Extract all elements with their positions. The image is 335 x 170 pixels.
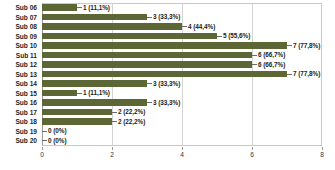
category-label: Sub 15	[15, 89, 37, 99]
x-tick-mark	[42, 147, 43, 150]
data-label-leader-line	[42, 131, 47, 132]
category-label: Sub 08	[15, 22, 37, 32]
bar-row: 5 (55,6%)	[42, 32, 322, 42]
data-label: 4 (44,4%)	[188, 22, 215, 32]
x-tick-mark	[252, 147, 253, 150]
data-label-leader-line	[77, 7, 82, 8]
horizontal-bar-chart: Sub 06Sub 07Sub 08Sub 09Sub 10Sub 11Sub …	[0, 0, 335, 170]
bar[interactable]	[42, 90, 77, 97]
category-label: Sub 19	[15, 127, 37, 137]
category-label: Sub 09	[15, 32, 37, 42]
data-label-leader-line	[147, 17, 152, 18]
data-label: 2 (22,2%)	[118, 107, 145, 117]
data-label-leader-line	[252, 64, 257, 65]
data-label: 7 (77,8%)	[293, 69, 320, 79]
bar[interactable]	[42, 80, 147, 87]
data-label: 3 (33,3%)	[153, 12, 180, 22]
x-tick-mark	[112, 147, 113, 150]
bar[interactable]	[42, 99, 147, 106]
category-label: Sub 11	[16, 51, 37, 61]
data-label-leader-line	[217, 36, 222, 37]
category-label: Sub 16	[15, 98, 37, 108]
data-label: 7 (77,8%)	[293, 41, 320, 51]
data-label: 6 (66,7%)	[258, 60, 285, 70]
data-label-leader-line	[147, 102, 152, 103]
bar[interactable]	[42, 109, 112, 116]
bar-row: 0 (0%)	[42, 127, 322, 137]
bar-row: 6 (66,7%)	[42, 60, 322, 70]
data-label: 5 (55,6%)	[223, 31, 250, 41]
data-label: 3 (33,3%)	[153, 79, 180, 89]
x-tick-label: 6	[250, 151, 254, 158]
data-label: 6 (66,7%)	[258, 50, 285, 60]
x-tick-label: 8	[320, 151, 324, 158]
bar[interactable]	[42, 61, 252, 68]
bar[interactable]	[42, 4, 77, 11]
bar-row: 2 (22,2%)	[42, 117, 322, 127]
bar-row: 3 (33,3%)	[42, 13, 322, 23]
bar[interactable]	[42, 33, 217, 40]
data-label: 0 (0%)	[48, 136, 67, 146]
data-label-leader-line	[252, 55, 257, 56]
bar-row: 7 (77,8%)	[42, 70, 322, 80]
bar-rows: 1 (11,1%)3 (33,3%)4 (44,4%)5 (55,6%)7 (7…	[42, 3, 322, 146]
data-label-leader-line	[42, 140, 47, 141]
bar-row: 0 (0%)	[42, 136, 322, 146]
bar[interactable]	[42, 23, 182, 30]
data-label-leader-line	[112, 121, 117, 122]
data-label-leader-line	[112, 112, 117, 113]
category-axis-labels: Sub 06Sub 07Sub 08Sub 09Sub 10Sub 11Sub …	[0, 3, 40, 146]
x-tick-label: 4	[180, 151, 184, 158]
x-tick-mark	[182, 147, 183, 150]
data-label: 1 (11,1%)	[83, 3, 110, 13]
bar-row: 1 (11,1%)	[42, 89, 322, 99]
data-label: 3 (33,3%)	[153, 98, 180, 108]
data-label-leader-line	[147, 83, 152, 84]
data-label-leader-line	[182, 26, 187, 27]
bar-row: 3 (33,3%)	[42, 98, 322, 108]
bar[interactable]	[42, 118, 112, 125]
x-tick-label: 2	[110, 151, 114, 158]
category-label: Sub 06	[15, 3, 37, 13]
data-label-leader-line	[287, 45, 292, 46]
bar[interactable]	[42, 42, 287, 49]
data-label: 0 (0%)	[48, 126, 67, 136]
category-label: Sub 10	[15, 41, 37, 51]
data-label-leader-line	[77, 93, 82, 94]
x-axis: 02468	[42, 147, 322, 167]
bar[interactable]	[42, 71, 287, 78]
category-label: Sub 13	[15, 70, 37, 80]
category-label: Sub 20	[15, 136, 37, 146]
data-label: 2 (22,2%)	[118, 117, 145, 127]
bar-row: 1 (11,1%)	[42, 3, 322, 13]
category-label: Sub 17	[15, 108, 37, 118]
x-tick-mark	[322, 147, 323, 150]
bar-row: 2 (22,2%)	[42, 108, 322, 118]
bar-row: 4 (44,4%)	[42, 22, 322, 32]
category-label: Sub 07	[15, 13, 37, 23]
bar[interactable]	[42, 52, 252, 59]
category-label: Sub 12	[15, 60, 37, 70]
category-label: Sub 18	[15, 117, 37, 127]
data-label: 1 (11,1%)	[83, 88, 110, 98]
x-tick-label: 0	[40, 151, 44, 158]
category-label: Sub 14	[15, 79, 37, 89]
data-label-leader-line	[287, 74, 292, 75]
bar[interactable]	[42, 14, 147, 21]
